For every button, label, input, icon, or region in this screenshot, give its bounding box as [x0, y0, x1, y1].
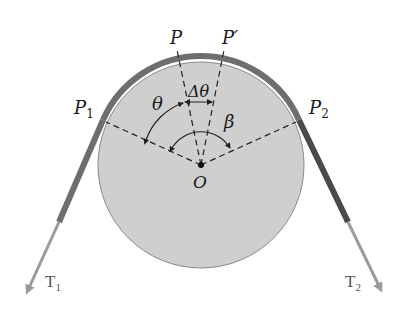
- label-T2: T2: [345, 272, 361, 293]
- label-beta: β: [223, 111, 234, 132]
- belt-left: [59, 120, 103, 222]
- center-point-O: [198, 162, 204, 168]
- label-theta: θ: [152, 93, 163, 114]
- label-T1: T1: [45, 272, 61, 293]
- label-P2: P2: [308, 97, 329, 121]
- label-P-prime: P′: [221, 27, 238, 48]
- label-P: P: [169, 27, 183, 48]
- label-delta-theta: Δθ: [187, 82, 210, 101]
- belt-right: [299, 120, 348, 222]
- label-P1: P1: [73, 97, 94, 121]
- label-O: O: [193, 172, 207, 192]
- belt-friction-diagram: P P′ P1 P2 θ Δθ β O T1 T2: [0, 0, 395, 310]
